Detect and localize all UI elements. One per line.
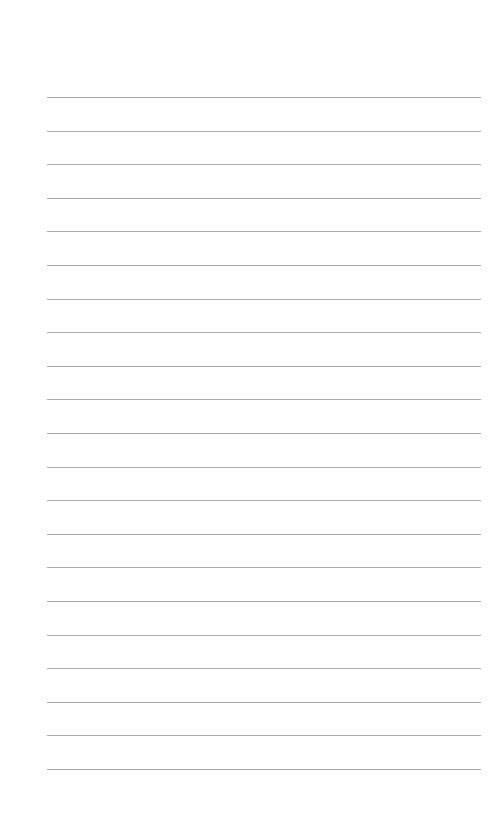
ruled-line <box>47 601 481 602</box>
ruled-line <box>47 198 481 199</box>
ruled-line <box>47 635 481 636</box>
ruled-line <box>47 500 481 501</box>
ruled-line <box>47 265 481 266</box>
ruled-line <box>47 97 481 98</box>
ruled-line <box>47 735 481 736</box>
ruled-line <box>47 433 481 434</box>
ruled-line <box>47 366 481 367</box>
ruled-line <box>47 668 481 669</box>
ruled-line <box>47 131 481 132</box>
lined-paper-page <box>0 0 492 830</box>
ruled-line <box>47 164 481 165</box>
ruled-line <box>47 769 481 770</box>
ruled-line <box>47 231 481 232</box>
ruled-line <box>47 332 481 333</box>
ruled-line <box>47 534 481 535</box>
ruled-line <box>47 299 481 300</box>
ruled-line <box>47 467 481 468</box>
ruled-line <box>47 399 481 400</box>
ruled-line <box>47 702 481 703</box>
ruled-line <box>47 567 481 568</box>
